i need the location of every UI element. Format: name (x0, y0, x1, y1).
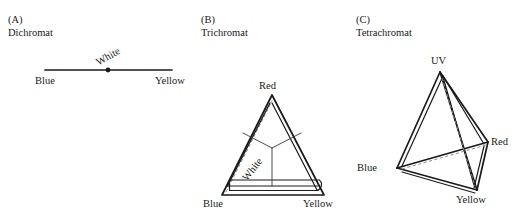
dichromat-line-diagram (8, 0, 193, 219)
label-blue-trichromat: Blue (203, 198, 223, 209)
inner-edge-uv-yellow (443, 77, 474, 185)
hue-boundary-to-yellow (272, 133, 301, 148)
tetrahedron-outer-edges (397, 72, 488, 190)
inner-edge-uv-blue (402, 76, 443, 166)
edge-blue-yellow (397, 168, 477, 190)
label-uv-tetrachromat: UV (431, 55, 446, 66)
panel-dichromat: (A) Dichromat White Blue Yellow (8, 0, 193, 219)
inner-edge-uv-red (443, 76, 484, 144)
inner-edge-blue-yellow (402, 172, 475, 193)
hidden-edge-uv-yellow-back (442, 78, 475, 186)
hidden-edge-blue-red (402, 145, 486, 169)
label-red-trichromat: Red (259, 80, 276, 91)
label-blue-tetrachromat: Blue (357, 162, 377, 173)
color-space-figure: (A) Dichromat White Blue Yellow (B) Tric… (0, 0, 527, 219)
label-blue-dichromat: Blue (35, 75, 55, 86)
panel-tetrachromat: (C) Tetrachromat (350, 0, 527, 219)
panel-trichromat: (B) Trichromat Red White (196, 0, 346, 219)
label-yellow-dichromat: Yellow (155, 75, 185, 86)
tetrachromat-tetrahedron-diagram (350, 0, 527, 219)
white-point-marker (106, 68, 111, 73)
trichromat-triangle-diagram (196, 0, 346, 219)
edge-uv-blue (397, 72, 440, 168)
label-yellow-trichromat: Yellow (303, 198, 333, 209)
tetrahedron-hidden-edges (402, 78, 486, 186)
label-yellow-tetrachromat: Yellow (456, 194, 486, 205)
label-red-tetrachromat: Red (491, 136, 508, 147)
